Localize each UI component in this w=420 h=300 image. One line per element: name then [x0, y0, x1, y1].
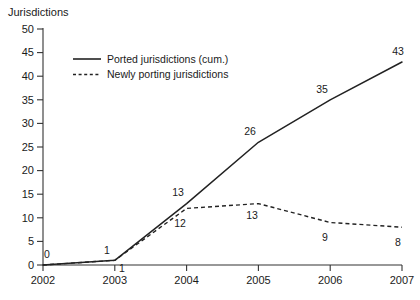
y-tick-label-50: 50 [22, 23, 34, 35]
y-tick-label-25: 25 [22, 141, 34, 153]
data-label-new-2006: 9 [322, 231, 328, 243]
legend-item-newly-porting[interactable]: Newly porting jurisdictions [73, 68, 228, 80]
y-tick-label-20: 20 [22, 164, 34, 176]
y-axis-title: Jurisdictions [8, 6, 69, 18]
legend-label-ported-cumulative: Ported jurisdictions (cum.) [107, 53, 228, 65]
x-tick-label-2004: 2004 [174, 274, 198, 286]
y-tick-label-15: 15 [22, 188, 34, 200]
y-tick-label-35: 35 [22, 94, 34, 106]
y-tick-label-0: 0 [28, 259, 34, 271]
legend-label-newly-porting: Newly porting jurisdictions [107, 68, 228, 80]
data-labels-newly-porting: 1 12 13 9 8 [119, 209, 401, 274]
line-chart: Jurisdictions 50 45 40 35 30 25 20 15 10 [0, 0, 420, 300]
chart-legend: Ported jurisdictions (cum.) Newly portin… [73, 53, 228, 81]
y-tick-label-45: 45 [22, 46, 34, 58]
x-tick-label-2007: 2007 [390, 274, 414, 286]
x-tick-label-2005: 2005 [246, 274, 270, 286]
y-tick-label-40: 40 [22, 70, 34, 82]
data-label-cum-2006: 35 [316, 83, 328, 95]
data-label-cum-2003: 1 [104, 244, 110, 256]
x-tick-label-2002: 2002 [31, 274, 55, 286]
x-axis-ticks: 2002 2003 2004 2005 2006 2007 [31, 265, 414, 286]
data-label-new-2003: 1 [119, 262, 125, 274]
chart-svg: Jurisdictions 50 45 40 35 30 25 20 15 10 [0, 0, 420, 300]
y-tick-label-10: 10 [22, 212, 34, 224]
data-label-cum-2002: 0 [44, 248, 50, 260]
data-label-new-2005: 13 [246, 209, 258, 221]
data-label-cum-2005: 26 [244, 125, 256, 137]
series-line-newly-porting [43, 204, 402, 265]
data-label-new-2004: 12 [174, 217, 186, 229]
data-label-cum-2004: 13 [172, 186, 184, 198]
y-tick-label-5: 5 [28, 235, 34, 247]
x-tick-label-2006: 2006 [318, 274, 342, 286]
data-label-cum-2007: 43 [392, 45, 404, 57]
y-tick-label-30: 30 [22, 117, 34, 129]
series-line-ported-cumulative [43, 62, 402, 265]
y-axis-ticks: 50 45 40 35 30 25 20 15 10 5 0 [22, 23, 43, 271]
x-tick-label-2003: 2003 [103, 274, 127, 286]
data-label-new-2007: 8 [395, 236, 401, 248]
legend-item-ported-cumulative[interactable]: Ported jurisdictions (cum.) [73, 53, 228, 65]
